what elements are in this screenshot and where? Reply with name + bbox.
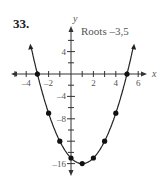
x-axis-arrow-left-icon — [11, 72, 17, 77]
data-point — [35, 71, 40, 76]
data-point — [124, 71, 129, 76]
x-tick-label: –2 — [43, 78, 53, 88]
data-point — [68, 155, 73, 160]
y-axis-arrow-down-icon — [69, 170, 74, 176]
y-tick-label: –4 — [56, 91, 67, 101]
x-tick-label: 2 — [91, 78, 96, 88]
x-tick-label: –4 — [21, 78, 32, 88]
parabola-curve — [31, 48, 133, 164]
y-tick-label: –16 — [52, 159, 67, 169]
y-axis-arrow-icon — [69, 26, 74, 32]
x-tick-label: 4 — [114, 78, 119, 88]
y-tick-label: 4 — [62, 47, 67, 57]
data-point — [102, 139, 107, 144]
x-tick-label: 6 — [136, 78, 141, 88]
roots-annotation: Roots –3,5 — [81, 25, 129, 37]
curve-arrow-right-icon — [131, 44, 136, 50]
data-point — [113, 111, 118, 116]
y-tick-label: –8 — [56, 114, 67, 124]
parabola-chart: –4–22464–4–8–16xyRoots –3,5 — [0, 0, 163, 184]
y-axis-label: y — [72, 13, 78, 24]
data-point — [91, 155, 96, 160]
data-point — [80, 161, 85, 166]
x-axis-label: x — [151, 68, 157, 79]
data-point — [46, 111, 51, 116]
x-axis-arrow-icon — [141, 72, 147, 77]
curve-arrow-left-icon — [28, 44, 33, 50]
data-point — [57, 139, 62, 144]
